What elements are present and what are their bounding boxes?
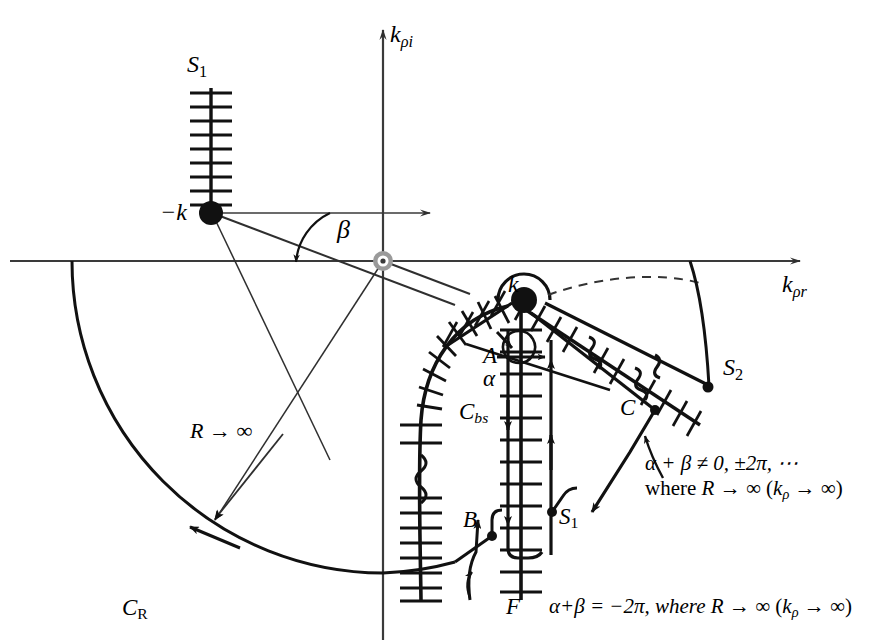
R-leader-arrow: [215, 434, 283, 519]
label-alpha: α: [483, 367, 495, 390]
annotation-right-line2: where R → ∞ (kρ → ∞): [645, 478, 843, 501]
real-axis-label: kρr: [782, 272, 807, 300]
label-Cbs: Cbs: [459, 400, 488, 426]
label-beta: β: [337, 217, 350, 243]
pole-minus-k: [199, 201, 223, 225]
annotation-bottom: α+β = −2π, where R → ∞ (kρ → ∞): [549, 596, 852, 619]
beta-angle-arc: [296, 213, 330, 262]
figure-canvas: kρi kρr S1 −k k β A α Cbs C S2 B S1 F CR…: [0, 0, 870, 644]
dashed-arc: [548, 277, 700, 295]
axis-lines: [10, 30, 800, 640]
origin-marker: [373, 251, 393, 271]
right-closing-arc: [690, 261, 709, 386]
branch-cut-s1-top: [190, 88, 232, 212]
imaginary-axis-label: kρi: [390, 22, 413, 50]
label-point-A: A: [483, 344, 497, 367]
F-upward-arrow: [469, 520, 478, 600]
label-point-C: C: [620, 396, 635, 419]
label-k: k: [508, 272, 519, 296]
radius-ray-2: [215, 261, 383, 520]
label-S1-top: S1: [187, 52, 207, 80]
B-upper-connector: [492, 510, 502, 536]
annotation-right-line1: α + β ≠ 0, ±2π, ⋯: [645, 453, 798, 474]
label-R-infinity: R → ∞: [190, 420, 252, 442]
branch-cut-s2: [515, 295, 701, 436]
label-minus-k: −k: [160, 200, 187, 224]
label-S2: S2: [723, 355, 743, 383]
CR-direction-arrow: [190, 527, 240, 548]
label-S1-bottom: S1: [559, 505, 578, 531]
label-CR: CR: [122, 596, 148, 622]
contour-diagram-svg: [0, 0, 870, 644]
contour-CR-arc: [72, 261, 383, 573]
point-C-dot: [650, 405, 660, 415]
label-point-F: F: [506, 595, 520, 618]
label-point-B: B: [463, 508, 477, 531]
